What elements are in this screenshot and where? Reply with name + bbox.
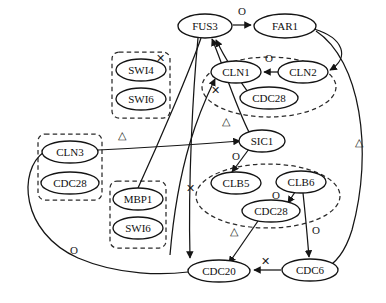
node-sic1[interactable]: SIC1 <box>239 130 285 152</box>
edge-clb6-cdc28c <box>288 192 295 203</box>
edge-label-cln3-sic1: △ <box>118 129 127 141</box>
node-cln1[interactable]: CLN1 <box>211 61 261 83</box>
edge-label-cdc28-fus3: ✕ <box>211 84 220 96</box>
edge-label-cln1-fus3: ✕ <box>156 52 165 64</box>
edge-label-cdc28-cdc20: △ <box>230 225 239 237</box>
node-label-fus3: FUS3 <box>192 20 218 32</box>
node-label-cln1: CLN1 <box>222 66 250 78</box>
edge-label-cdc6-cdc20: ✕ <box>261 255 270 267</box>
edge-label-cln2-cln1: O <box>265 52 273 64</box>
edge-label-fus3-far1: O <box>238 5 246 17</box>
node-label-far1: FAR1 <box>272 20 298 32</box>
diagram-svg: FUS3 FAR1 SWI4 SWI6 CLN1 CLN2 CDC28 CLN <box>0 0 386 303</box>
node-label-sic1: SIC1 <box>251 135 274 147</box>
node-cdc28-cln3[interactable]: CDC28 <box>41 172 99 194</box>
edge-label-far1-cdc6: △ <box>355 136 364 148</box>
node-far1[interactable]: FAR1 <box>254 14 316 38</box>
node-label-cdc28-cln3: CDC28 <box>53 177 87 189</box>
edge-label-sic1-fus3: △ <box>222 115 231 127</box>
node-cdc28-clb[interactable]: CDC28 <box>242 200 300 222</box>
node-cdc20[interactable]: CDC20 <box>188 260 250 282</box>
node-label-swi6-lower: SWI6 <box>125 222 151 234</box>
node-fus3[interactable]: FUS3 <box>178 14 232 38</box>
edge-label-sic1-clb5: O <box>232 150 240 162</box>
node-label-cdc6: CDC6 <box>296 264 325 276</box>
node-label-mbp1: MBP1 <box>124 193 153 205</box>
node-clb5[interactable]: CLB5 <box>211 172 261 194</box>
node-cln3[interactable]: CLN3 <box>42 141 98 163</box>
node-swi6-upper[interactable]: SWI6 <box>116 88 166 110</box>
edge-label-cln3-cdc20: O <box>70 244 78 256</box>
node-label-clb6: CLB6 <box>288 176 315 188</box>
edge-label-clb6-cdc6: O <box>312 224 320 236</box>
node-cdc6[interactable]: CDC6 <box>282 259 338 281</box>
node-label-swi4: SWI4 <box>128 64 154 76</box>
edge-cln3-cdc20 <box>28 152 188 274</box>
node-label-swi6-upper: SWI6 <box>128 93 154 105</box>
node-label-cdc28-cln: CDC28 <box>252 92 286 104</box>
node-label-cln3: CLN3 <box>56 146 84 158</box>
edge-cln3-sic1 <box>98 141 240 150</box>
node-label-clb5: CLB5 <box>223 177 250 189</box>
node-swi6-lower[interactable]: SWI6 <box>113 217 163 239</box>
edge-label-clb6-cdc28: O <box>272 189 280 201</box>
node-clb6[interactable]: CLB6 <box>276 171 326 193</box>
node-label-cdc20: CDC20 <box>202 265 236 277</box>
edge-fus3-down-1 <box>190 38 198 258</box>
node-mbp1[interactable]: MBP1 <box>113 188 163 210</box>
edge-clb6-cdc6 <box>303 193 309 257</box>
node-label-cln2: CLN2 <box>289 66 317 78</box>
node-cdc28-cln[interactable]: CDC28 <box>240 87 298 109</box>
edge-label-mbp1-cdc20: ✕ <box>186 182 195 194</box>
node-cln2[interactable]: CLN2 <box>278 61 328 83</box>
network-diagram-canvas: FUS3 FAR1 SWI4 SWI6 CLN1 CLN2 CDC28 CLN <box>0 0 386 303</box>
node-label-cdc28-clb: CDC28 <box>254 205 288 217</box>
